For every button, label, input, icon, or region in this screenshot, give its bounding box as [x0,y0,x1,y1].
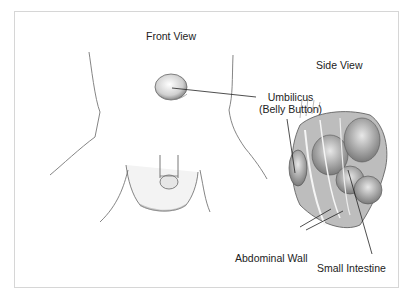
small-intestine-label: Small Intestine [317,262,386,274]
front-view-torso [50,52,267,179]
abdominal-wall-label: Abdominal Wall [235,252,308,264]
anatomy-illustration [0,0,412,304]
front-view-groin [100,155,210,222]
umbilical-hernia-front [155,74,187,100]
umbilicus-label-line1: Umbilicus [259,91,322,103]
front-view-title: Front View [146,30,196,42]
umbilicus-label: Umbilicus (Belly Button) [259,91,322,115]
side-view-title: Side View [316,59,363,71]
side-view-anatomy [289,98,387,228]
umbilicus-label-line2: (Belly Button) [259,103,322,115]
